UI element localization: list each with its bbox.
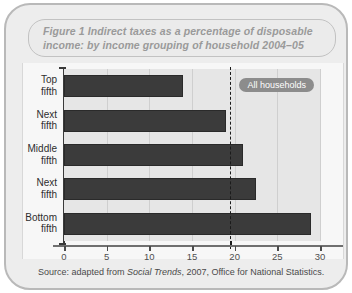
bar-row: Next fifth: [64, 178, 320, 200]
plot-area: Top fifthNext fifthMiddle fifthNext fift…: [64, 69, 320, 241]
bar-row: Bottom fifth: [64, 213, 320, 235]
x-axis-tick-label: 20: [223, 251, 247, 262]
bar: [64, 110, 226, 132]
y-axis-label: Bottom fifth: [1, 212, 57, 235]
x-axis-tick-label: 10: [137, 251, 161, 262]
bar: [64, 178, 256, 200]
source-publication: Social Trends: [127, 267, 181, 277]
x-axis-tick-label: 30: [308, 251, 332, 262]
chart-panel: Top fifthNext fifthMiddle fifthNext fift…: [22, 63, 344, 259]
y-axis-label: Next fifth: [1, 177, 57, 200]
figure-title: Figure 1 Indirect taxes as a percentage …: [43, 25, 331, 52]
y-axis-label: Top fifth: [1, 74, 57, 97]
x-axis-tick-label: 15: [180, 251, 204, 262]
bar: [64, 144, 243, 166]
all-households-line: [230, 67, 231, 249]
gridline: [320, 69, 321, 241]
source-note: Source: adapted from Social Trends, 2007…: [38, 267, 334, 277]
bar-row: Next fifth: [64, 110, 320, 132]
x-axis-tick-label: 0: [52, 251, 76, 262]
bar: [64, 213, 311, 235]
x-axis-line: [53, 245, 343, 247]
y-axis-label: Middle fifth: [1, 143, 57, 166]
figure-title-box: Figure 1 Indirect taxes as a percentage …: [28, 19, 336, 57]
bar-row: Middle fifth: [64, 144, 320, 166]
x-axis-tick-label: 5: [95, 251, 119, 262]
source-suffix: , 2007, Office for National Statistics.: [181, 267, 324, 277]
source-prefix: Source: adapted from: [38, 267, 127, 277]
x-axis-tick-label: 25: [265, 251, 289, 262]
all-households-label: All households: [239, 78, 314, 92]
y-axis-label: Next fifth: [1, 109, 57, 132]
bar: [64, 75, 183, 97]
figure-frame: Figure 1 Indirect taxes as a percentage …: [4, 3, 348, 290]
